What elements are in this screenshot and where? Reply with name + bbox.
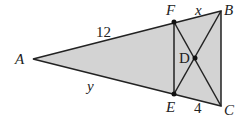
point-f-dot (172, 20, 177, 25)
label-f: F (165, 2, 176, 18)
geometry-diagram: A F B E C D 12 x y 4 (0, 0, 240, 120)
label-af-length: 12 (96, 24, 111, 40)
label-c: C (224, 102, 235, 118)
label-ae-length: y (85, 78, 94, 94)
label-fb-length: x (194, 2, 202, 18)
diagram-svg: A F B E C D 12 x y 4 (0, 0, 240, 120)
label-a: A (14, 51, 25, 67)
point-d-dot (193, 56, 198, 61)
point-e-dot (172, 92, 177, 97)
label-d: D (179, 50, 190, 66)
label-b: B (224, 2, 233, 18)
label-ec-length: 4 (194, 100, 202, 116)
label-e: E (165, 99, 175, 115)
